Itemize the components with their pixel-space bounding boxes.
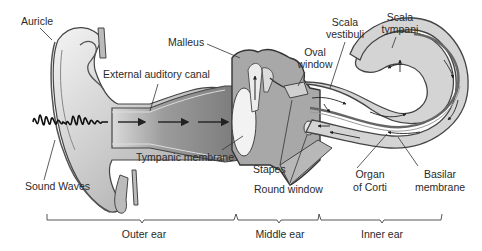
label-scala-vestibuli-line2: vestibuli — [320, 28, 370, 40]
section-label-outer-ear: Outer ear — [102, 228, 186, 240]
label-organ-of-corti-line2: of Corti — [347, 181, 393, 193]
label-oval-window-line2: window — [293, 58, 337, 70]
label-scala-vestibuli-line1: Scala — [325, 16, 365, 28]
section-label-inner-ear: Inner ear — [340, 228, 424, 240]
label-tympanic-membrane: Tympanic membrane — [136, 151, 234, 163]
label-organ-of-corti-line1: Organ — [350, 168, 390, 180]
label-round-window: Round window — [254, 183, 323, 195]
label-scala-tympani-line1: Scala — [380, 11, 420, 23]
label-oval-window-line1: Oval — [298, 46, 332, 58]
section-label-middle-ear: Middle ear — [238, 228, 322, 240]
label-stapes: Stapes — [253, 163, 286, 175]
label-basilar-membrane-line1: Basilar — [418, 168, 462, 180]
section-brackets — [47, 214, 442, 223]
label-scala-tympani-line2: tympani — [375, 23, 425, 35]
ear-anatomy-diagram: Auricle Malleus External auditory canal … — [0, 0, 482, 251]
label-external-auditory-canal: External auditory canal — [103, 68, 210, 80]
ear-illustration — [0, 0, 482, 251]
label-auricle: Auricle — [21, 15, 53, 27]
label-malleus: Malleus — [168, 36, 204, 48]
label-basilar-membrane-line2: membrane — [413, 181, 467, 193]
label-sound-waves: Sound Waves — [25, 180, 90, 192]
